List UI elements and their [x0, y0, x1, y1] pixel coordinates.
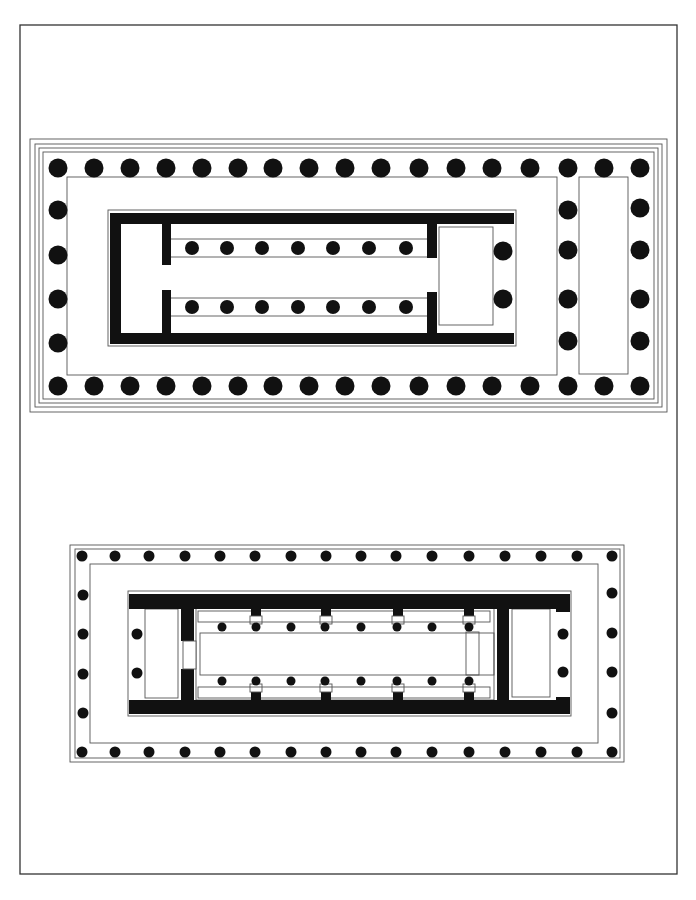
- rear-block: [466, 632, 479, 675]
- column: [572, 551, 583, 562]
- upper-temple-plan: [30, 139, 667, 412]
- column: [607, 708, 618, 719]
- architectural-drawing-sheet: [0, 0, 696, 900]
- column: [121, 159, 140, 178]
- cella-wall: [181, 594, 194, 641]
- column: [559, 290, 578, 309]
- interior-column: [218, 677, 227, 686]
- column: [286, 551, 297, 562]
- column: [559, 241, 578, 260]
- pilaster: [393, 692, 403, 700]
- column: [49, 377, 68, 396]
- interior-column: [252, 623, 261, 632]
- column: [483, 377, 502, 396]
- stylobate-border-line: [75, 549, 620, 758]
- column: [78, 708, 89, 719]
- interior-column: [362, 241, 376, 255]
- interior-column: [185, 300, 199, 314]
- column: [410, 159, 429, 178]
- column: [521, 159, 540, 178]
- interior-column: [357, 623, 366, 632]
- interior-column: [287, 623, 296, 632]
- pronaos-room: [145, 609, 178, 698]
- interior-column: [326, 241, 340, 255]
- column: [229, 159, 248, 178]
- aisle-strip: [198, 611, 490, 622]
- column: [78, 590, 89, 601]
- doorway: [183, 641, 196, 669]
- pilaster: [321, 692, 331, 700]
- column: [250, 747, 261, 758]
- stylobate-border-line: [70, 545, 624, 762]
- column: [77, 747, 88, 758]
- interior-column: [393, 677, 402, 686]
- interior-column: [399, 241, 413, 255]
- aisle-strip: [198, 687, 490, 698]
- column: [49, 290, 68, 309]
- column: [427, 747, 438, 758]
- cella-wall: [556, 594, 570, 612]
- opisthodomos-area: [579, 177, 628, 374]
- porch-column: [558, 629, 569, 640]
- column: [78, 669, 89, 680]
- porch-column: [494, 242, 513, 261]
- stylobate-border-line: [39, 148, 658, 403]
- column: [85, 377, 104, 396]
- column: [110, 747, 121, 758]
- column: [157, 377, 176, 396]
- column: [321, 551, 332, 562]
- interior-column: [428, 623, 437, 632]
- pilaster: [393, 608, 403, 616]
- interior-column: [465, 677, 474, 686]
- column: [193, 377, 212, 396]
- column: [229, 377, 248, 396]
- column: [264, 159, 283, 178]
- column: [631, 377, 650, 396]
- interior-column: [220, 300, 234, 314]
- column: [536, 747, 547, 758]
- column: [264, 377, 283, 396]
- interior-column: [428, 677, 437, 686]
- interior-column: [393, 623, 402, 632]
- interior-column: [362, 300, 376, 314]
- column: [559, 332, 578, 351]
- column: [521, 377, 540, 396]
- column: [180, 551, 191, 562]
- column: [572, 747, 583, 758]
- column: [447, 159, 466, 178]
- column: [215, 551, 226, 562]
- column: [286, 747, 297, 758]
- column: [607, 551, 618, 562]
- column: [300, 159, 319, 178]
- column: [78, 629, 89, 640]
- column: [85, 159, 104, 178]
- column: [336, 377, 355, 396]
- pronaos-room: [439, 227, 493, 325]
- column: [215, 747, 226, 758]
- column: [121, 377, 140, 396]
- cella-wall: [427, 292, 437, 344]
- column: [559, 159, 578, 178]
- interior-column: [465, 623, 474, 632]
- column: [536, 551, 547, 562]
- column: [321, 747, 332, 758]
- column: [391, 551, 402, 562]
- column: [595, 377, 614, 396]
- cella-wall: [110, 213, 121, 344]
- interior-column: [321, 623, 330, 632]
- column: [49, 246, 68, 265]
- column: [595, 159, 614, 178]
- cella-wall: [497, 594, 509, 714]
- column: [500, 747, 511, 758]
- pilaster: [464, 692, 474, 700]
- interior-column: [255, 300, 269, 314]
- column: [559, 377, 578, 396]
- peristyle-inner-line: [67, 177, 557, 375]
- column: [631, 290, 650, 309]
- column: [427, 551, 438, 562]
- column: [356, 747, 367, 758]
- column: [464, 551, 475, 562]
- opisthodomos-room: [512, 609, 550, 697]
- interior-column: [287, 677, 296, 686]
- column: [607, 628, 618, 639]
